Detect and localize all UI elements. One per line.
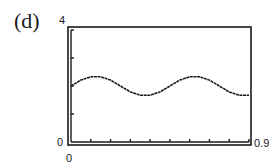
chart-frame <box>68 27 251 145</box>
y-max-label: 4 <box>59 14 65 26</box>
chart: 4 0 0 0.9 <box>0 0 279 168</box>
x-min-label: 0 <box>66 152 72 164</box>
y-min-label: 0 <box>57 136 63 148</box>
data-line <box>71 77 249 95</box>
x-max-label: 0.9 <box>254 137 269 149</box>
